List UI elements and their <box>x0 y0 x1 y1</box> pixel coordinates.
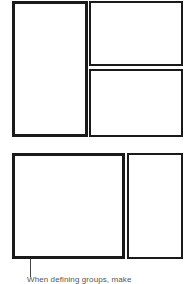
pane-left-tall <box>12 1 88 137</box>
pane-left-wide <box>12 153 125 259</box>
pane-right-top <box>89 1 183 66</box>
pane-right-bottom <box>89 69 183 137</box>
callout-caption: When defining groups, make <box>27 275 131 284</box>
pane-right-narrow <box>127 153 183 259</box>
